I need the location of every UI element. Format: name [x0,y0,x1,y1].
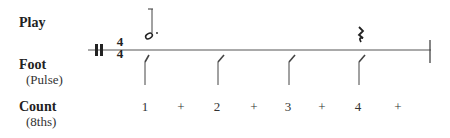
dotted-half-note-icon [145,9,158,40]
count-3-and: + [318,99,325,115]
time-signature: 4 4 [113,36,127,60]
count-4: 4 [355,99,362,115]
count-4-and: + [394,99,401,115]
quarter-rest-icon [359,27,363,42]
pulse-mark-2 [218,55,224,85]
count-1: 1 [142,99,149,115]
rhythm-staff [0,0,450,138]
count-3: 3 [285,99,292,115]
count-1-and: + [177,99,184,115]
pulse-marks [145,55,365,85]
count-2-and: + [250,99,257,115]
pulse-mark-4 [359,55,365,85]
pulse-mark-1 [145,55,149,85]
pulse-mark-3 [289,55,295,85]
count-2: 2 [214,99,221,115]
time-sig-bottom: 4 [113,48,127,60]
